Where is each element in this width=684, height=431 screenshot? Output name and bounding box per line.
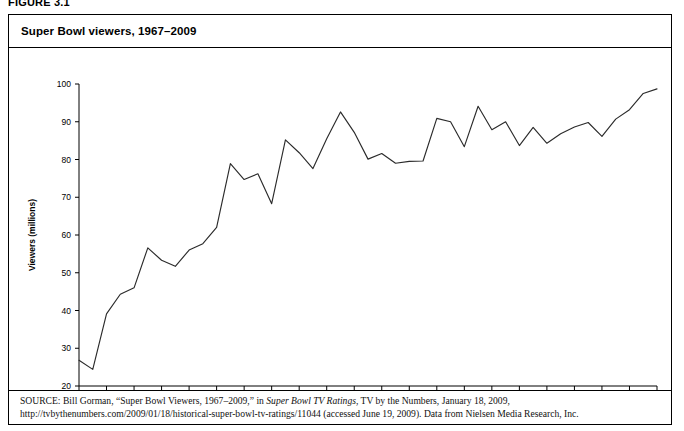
y-tick-label: 60 [62, 230, 72, 240]
source-keyword: SOURCE: [20, 395, 61, 406]
y-tick-label: 100 [57, 79, 71, 89]
y-axis-title: Viewers (millions) [27, 199, 37, 271]
y-tick-label: 40 [62, 306, 72, 316]
y-tick-label: 50 [62, 268, 72, 278]
chart-plot-area: 2030405060708090100196719691971197319751… [9, 47, 671, 392]
data-series-line [79, 89, 657, 369]
y-tick-label: 70 [62, 192, 72, 202]
figure-box: Super Bowl viewers, 1967–2009 2030405060… [8, 14, 672, 425]
line-chart: 2030405060708090100196719691971197319751… [9, 47, 671, 392]
y-tick-label: 80 [62, 155, 72, 165]
y-tick-label: 90 [62, 117, 72, 127]
chart-title: Super Bowl viewers, 1967–2009 [21, 25, 197, 37]
source-note: SOURCE: Bill Gorman, “Super Bowl Viewers… [20, 395, 664, 420]
y-tick-label: 30 [62, 343, 72, 353]
source-italic-title: Super Bowl TV Ratings [266, 395, 356, 406]
figure-label: FIGURE 3.1 [8, 0, 70, 8]
source-text-part1: Bill Gorman, “Super Bowl Viewers, 1967–2… [61, 395, 267, 406]
source-divider [9, 390, 671, 391]
